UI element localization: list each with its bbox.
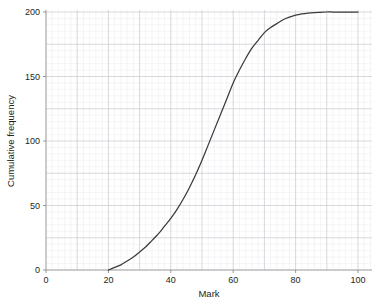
x-tick-label: 100	[350, 275, 365, 285]
y-tick-label: 200	[25, 7, 40, 17]
y-tick-label: 0	[35, 265, 40, 275]
x-axis-title: Mark	[198, 288, 219, 299]
y-axis-title: Cumulative frequency	[5, 95, 16, 187]
x-tick-label: 40	[166, 275, 176, 285]
y-tick-labels: 050100150200	[25, 7, 40, 275]
y-tick-label: 100	[25, 136, 40, 146]
y-tick-label: 150	[25, 72, 40, 82]
x-tick-label: 20	[103, 275, 113, 285]
x-tick-label: 60	[228, 275, 238, 285]
axis-ticks	[43, 12, 358, 273]
x-tick-label: 80	[291, 275, 301, 285]
x-tick-labels: 020406080100	[43, 275, 365, 285]
y-tick-label: 50	[30, 201, 40, 211]
chart-svg: 020406080100 050100150200 Mark Cumulativ…	[0, 0, 380, 302]
minor-gridlines	[46, 10, 372, 270]
x-tick-label: 0	[43, 275, 48, 285]
cumulative-frequency-chart: 020406080100 050100150200 Mark Cumulativ…	[0, 0, 380, 302]
